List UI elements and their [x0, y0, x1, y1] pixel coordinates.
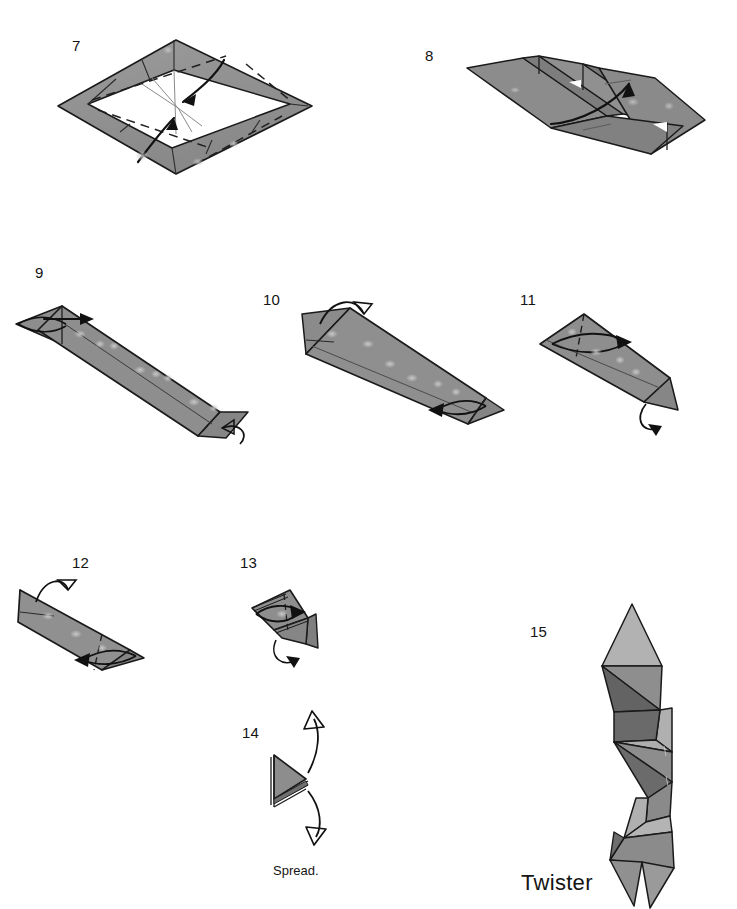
step-number-14: 14 [242, 725, 259, 740]
diagram-page: 7 [0, 0, 737, 909]
step-number-9: 9 [35, 265, 44, 280]
step-9-illustration [8, 286, 290, 446]
step-7-illustration [46, 34, 322, 189]
step-13-illustration [238, 580, 348, 670]
step-15-illustration [580, 600, 710, 909]
step-number-15: 15 [530, 624, 547, 639]
step-11-illustration [528, 306, 704, 446]
step-12-main-band [18, 590, 130, 670]
step-number-13: 13 [240, 555, 257, 570]
figure-step-10 [290, 292, 518, 440]
twister-leg-right [642, 862, 674, 908]
twister-leg-left [610, 860, 642, 906]
figure-step-11 [528, 306, 704, 446]
step-14-spread-arrow-down [306, 791, 326, 845]
twister-facet-second-dark [614, 710, 660, 742]
step-13-paper-texture [276, 610, 288, 618]
figure-step-8 [455, 50, 715, 165]
figure-step-14 [262, 705, 342, 850]
step-8-illustration [455, 50, 715, 165]
step-number-12: 12 [72, 555, 89, 570]
step-13-turn-over-arrow [274, 640, 300, 668]
step-14-illustration [262, 705, 342, 850]
step-10-illustration [290, 292, 518, 440]
figure-step-15 [580, 600, 710, 909]
step-12-fold-behind-arrow [36, 580, 76, 602]
step-12-illustration [10, 572, 170, 690]
step-11-turn-over-arrow [640, 404, 662, 436]
caption-twister: Twister [521, 872, 593, 894]
figure-step-9 [8, 286, 290, 446]
twister-facet-top-light [602, 604, 662, 666]
step-11-main-band [540, 314, 670, 402]
figure-step-12 [10, 572, 170, 690]
step-number-11: 11 [520, 292, 536, 307]
step-14-spread-arrow-up [304, 711, 324, 773]
step-number-7: 7 [72, 38, 81, 53]
figure-step-7 [46, 34, 322, 189]
step-number-8: 8 [425, 48, 434, 63]
step-number-10: 10 [263, 292, 280, 307]
figure-step-13 [238, 580, 348, 670]
caption-spread: Spread. [273, 864, 319, 877]
